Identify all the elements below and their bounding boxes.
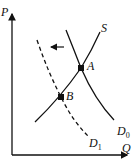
demand-curve-d1 <box>37 40 88 136</box>
point-a-marker <box>78 65 84 71</box>
x-axis-label: Q <box>122 142 131 154</box>
y-axis-label: P <box>1 6 8 18</box>
demand-d0-label: D0 <box>117 125 130 140</box>
point-b-label: B <box>66 90 73 102</box>
demand-d1-subscript: 1 <box>98 143 102 152</box>
demand-d0-subscript: 0 <box>126 131 130 140</box>
supply-curve <box>35 32 100 122</box>
supply-demand-diagram: P Q S D0 D1 A B <box>0 0 140 162</box>
point-a-label: A <box>87 60 94 72</box>
point-b-marker <box>58 94 64 100</box>
demand-d1-label: D1 <box>89 137 102 152</box>
demand-d1-letter: D <box>89 136 98 150</box>
demand-d0-letter: D <box>117 124 126 138</box>
supply-curve-label: S <box>101 22 107 34</box>
demand-curve-d0 <box>66 30 114 120</box>
